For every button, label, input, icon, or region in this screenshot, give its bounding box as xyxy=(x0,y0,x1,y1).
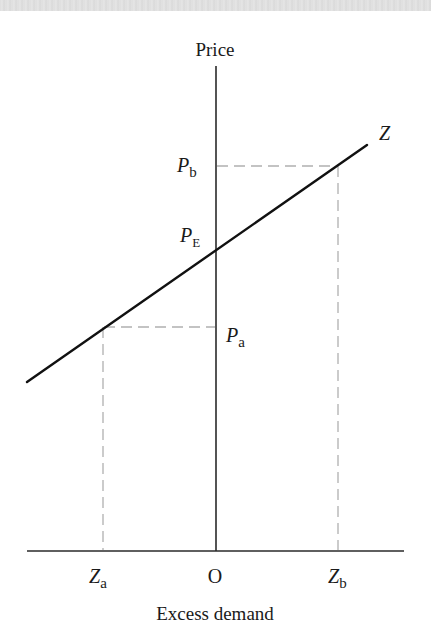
excess-demand-line-z xyxy=(27,145,367,382)
tick-label-za: Za xyxy=(89,565,107,591)
y-axis-label: Price xyxy=(195,39,234,60)
excess-demand-diagram: Price Z Pb PE Pa Za O Zb Excess demand xyxy=(0,0,431,636)
x-axis-label: Excess demand xyxy=(156,603,274,624)
guide-lines xyxy=(103,166,338,550)
price-label-pa: Pa xyxy=(225,324,245,350)
tick-label-origin: O xyxy=(208,565,222,587)
curve-label-z: Z xyxy=(379,122,391,144)
tick-label-zb: Zb xyxy=(328,565,347,591)
price-label-pe: PE xyxy=(179,224,200,250)
price-label-pb: Pb xyxy=(176,154,197,180)
